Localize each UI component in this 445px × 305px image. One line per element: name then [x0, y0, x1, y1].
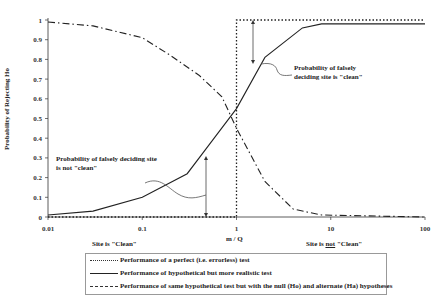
axes: 00.10.20.30.40.50.60.70.80.910.010.11101…: [33, 17, 431, 234]
x-tick-label: 0.1: [138, 225, 147, 233]
legend: Performance of a perfect (i.e. errorless…: [85, 253, 387, 295]
annotation-false-not-clean: Probability of falsely deciding site is …: [56, 155, 157, 173]
y-tick-label: 0.5: [33, 115, 42, 123]
dotted-line-icon: [90, 260, 118, 261]
x-axis-label: m / Q: [226, 235, 243, 244]
annotation-line: Probability of falsely: [294, 64, 363, 73]
annotation-line: deciding site is "clean": [294, 73, 363, 82]
site-not-clean-post: "Clean": [335, 240, 362, 248]
y-tick-label: 1: [39, 17, 43, 25]
solid-line-icon: [90, 273, 118, 274]
annotation-arrows: [145, 22, 292, 215]
legend-item-realistic: Performance of hypothetical but more rea…: [86, 267, 386, 280]
legend-label: Performance of same hypothetical test bu…: [120, 280, 392, 293]
x-tick-label: 10: [327, 225, 335, 233]
legend-label: Performance of hypothetical but more rea…: [120, 267, 272, 280]
site-clean-label: Site is "Clean": [92, 240, 137, 249]
y-tick-label: 0.8: [33, 56, 42, 64]
y-tick-label: 0.3: [33, 154, 42, 162]
y-tick-label: 0.1: [33, 194, 42, 202]
site-not-clean-pre: Site is: [306, 240, 325, 248]
series-lines: [48, 20, 425, 217]
x-tick-label: 100: [420, 225, 431, 233]
annotation-false-clean: Probability of falsely deciding site is …: [294, 64, 363, 82]
site-not-clean-emph: not: [325, 240, 335, 248]
y-tick-label: 0.6: [33, 95, 42, 103]
y-tick-label: 0.9: [33, 36, 42, 44]
series-dotted: [48, 20, 425, 217]
legend-label: Performance of a perfect (i.e. errorless…: [120, 254, 250, 267]
annotation-line: is not "clean": [56, 164, 157, 173]
legend-item-swapped: Performance of same hypothetical test bu…: [86, 280, 386, 293]
y-tick-label: 0.4: [33, 135, 42, 143]
annotation-line: Probability of falsely deciding site: [56, 155, 157, 164]
x-tick-label: 0.01: [42, 225, 55, 233]
site-not-clean-label: Site is not "Clean": [306, 240, 362, 249]
y-axis-label: Probability of Rejecting Ho: [3, 64, 11, 154]
y-tick-label: 0.2: [33, 174, 42, 182]
legend-item-perfect: Performance of a perfect (i.e. errorless…: [86, 254, 386, 267]
dash-dot-line-icon: [90, 286, 118, 287]
series-solid: [48, 24, 425, 215]
x-tick-label: 1: [235, 225, 239, 233]
y-tick-label: 0.7: [33, 76, 42, 84]
y-tick-label: 0: [39, 214, 43, 222]
